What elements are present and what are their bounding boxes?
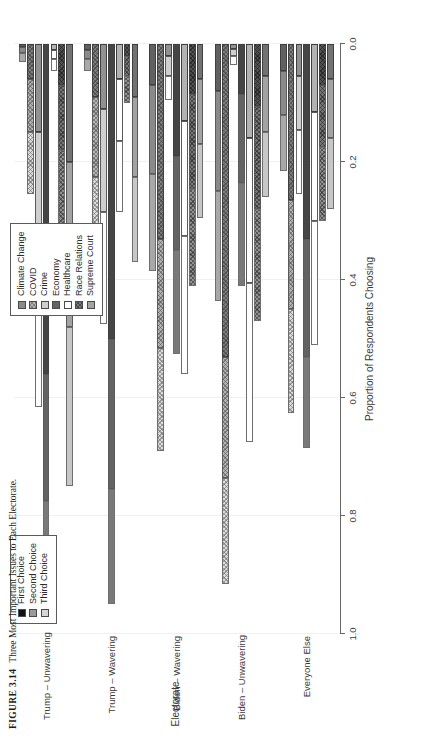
second-choice-swatch [29, 609, 37, 617]
climate-swatch [17, 301, 25, 309]
segment-economy-second [173, 156, 180, 250]
segment-covid-third [26, 132, 33, 194]
category-label-everyone-else: Everyone Else [301, 636, 312, 720]
bar-group-biden-wavering [144, 44, 209, 634]
axis-tick-label-0-4: 0.4 [347, 273, 358, 286]
segment-race-relations-third [188, 188, 195, 285]
segment-healthcare-first [115, 44, 122, 79]
bar-supreme-court [327, 44, 334, 634]
segment-economy-third [173, 250, 180, 353]
bar-climate-change [149, 44, 156, 634]
axis-tick-label-0-8: 0.8 [347, 509, 358, 522]
bar-crime [99, 44, 106, 634]
bar-race-relations [254, 44, 261, 634]
economy-swatch [52, 301, 60, 309]
axis-tick-label-0-2: 0.2 [347, 155, 358, 168]
bar-race-relations [319, 44, 326, 634]
segment-crime-first [165, 44, 172, 56]
segment-covid-second [222, 356, 229, 477]
category-label-biden-unwavering: Biden – Unwavering [236, 636, 247, 720]
segment-economy-first [173, 44, 180, 156]
axis-tick-label-0-0: 0.0 [347, 37, 358, 50]
segment-healthcare-first [50, 44, 57, 50]
legend-issues: Climate ChangeCOVIDCrimeEconomyHealthcar… [10, 223, 103, 316]
segment-healthcare-second [311, 111, 318, 220]
segment-economy-third [303, 356, 310, 447]
axis-tick-label-0-6: 0.6 [347, 391, 358, 404]
segment-crime-third [295, 129, 302, 194]
segment-crime-second [165, 55, 172, 76]
segment-economy-first [303, 44, 310, 239]
bar-healthcare [115, 44, 122, 634]
axis-tick [340, 633, 345, 634]
segment-covid-second [92, 97, 99, 177]
bar-race-relations [123, 44, 130, 634]
rotated-page-frame: 0.00.20.40.60.81.0 Proportion of Respond… [0, 0, 447, 739]
bar-group-everyone-else [274, 44, 339, 634]
bar-group-biden-unwavering [209, 44, 274, 634]
segment-economy-first [238, 44, 245, 94]
segment-healthcare-second [50, 49, 57, 58]
segment-climate-change-third [214, 191, 221, 300]
segment-crime-third [165, 76, 172, 100]
legend-choice-row: Second Choice [27, 542, 39, 616]
segment-race-relations-first [58, 44, 65, 85]
axis-tick [340, 279, 345, 280]
segment-healthcare-third [311, 221, 318, 345]
segment-crime-second [99, 108, 106, 211]
segment-crime-second [295, 76, 302, 129]
segment-climate-change-first [149, 44, 156, 85]
bar-supreme-court [196, 44, 203, 634]
legend-issue-row: Crime [39, 231, 51, 309]
bar-economy [107, 44, 114, 634]
axis-tick [340, 43, 345, 44]
segment-race-relations-second [254, 105, 261, 208]
segment-covid-first [26, 44, 33, 79]
figure-chart: 0.00.20.40.60.81.0 Proportion of Respond… [0, 20, 420, 720]
legend-choice-label: Third Choice [39, 552, 51, 603]
segment-climate-change-first [84, 44, 91, 50]
segment-race-relations-second [188, 94, 195, 188]
segment-economy-third [107, 489, 114, 604]
category-label-trump-unwavering: Trump – Unwavering [40, 636, 51, 720]
segment-economy-third [238, 182, 245, 285]
segment-covid-third [287, 309, 294, 412]
segment-climate-change-third [279, 114, 286, 170]
segment-economy-second [303, 238, 310, 356]
figure-caption: FIGURE 3.14Three Most Important Issues t… [8, 429, 18, 729]
axis-tick [340, 161, 345, 162]
segment-race-relations-first [188, 44, 195, 94]
legend-choice-rows: First ChoiceSecond ChoiceThird Choice [16, 542, 51, 616]
segment-healthcare-third [180, 235, 187, 374]
figure-number: FIGURE 3.14 [8, 669, 18, 729]
segment-healthcare-third [115, 141, 122, 212]
segment-race-relations-first [254, 44, 261, 106]
bar-covid [287, 44, 294, 634]
bar-climate-change [279, 44, 286, 634]
segment-race-relations-second [58, 85, 65, 150]
bar-economy [173, 44, 180, 634]
segment-economy-first [42, 44, 49, 374]
segment-crime-second [230, 48, 237, 55]
legend-issues-rows: Climate ChangeCOVIDCrimeEconomyHealthcar… [16, 231, 97, 309]
segment-supreme-court-first [261, 44, 268, 76]
segment-economy-second [238, 94, 245, 183]
bar-crime [165, 44, 172, 634]
segment-supreme-court-second [327, 79, 334, 138]
third-choice-swatch [40, 609, 48, 617]
segment-supreme-court-third [196, 144, 203, 218]
legend-issue-label: Supreme Court [85, 234, 97, 295]
segment-race-relations-first [123, 44, 130, 56]
segment-healthcare-first [180, 44, 187, 121]
segment-supreme-court-third [327, 138, 334, 209]
segment-race-relations-first [319, 44, 326, 85]
proportion-axis-line [340, 44, 341, 634]
legend-issue-label: Healthcare [62, 252, 74, 296]
segment-race-relations-third [319, 147, 326, 221]
legend-issue-row: Climate Change [16, 231, 28, 309]
segment-supreme-court-first [131, 44, 138, 97]
segment-covid-second [287, 200, 294, 309]
segment-healthcare-second [180, 120, 187, 235]
bar-covid [157, 44, 164, 634]
segment-climate-change-first [214, 44, 221, 91]
